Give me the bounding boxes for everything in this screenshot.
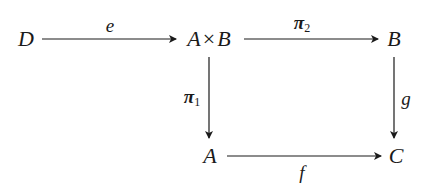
node-product-left: A (187, 26, 200, 51)
edge-label-f-text: f (299, 162, 304, 183)
edge-label-g: g (401, 89, 411, 108)
node-d: D (18, 28, 34, 50)
node-product-right: B (217, 26, 230, 51)
node-c: C (389, 145, 404, 167)
node-b: B (387, 28, 400, 50)
node-b-label: B (387, 26, 400, 51)
edge-label-pi2-sub: 2 (304, 21, 310, 35)
edge-label-e: e (106, 16, 114, 35)
edge-label-pi2-base: π (294, 12, 304, 33)
edge-label-pi1-base: π (184, 86, 194, 107)
edge-label-g-text: g (401, 88, 411, 109)
edge-label-e-text: e (106, 15, 114, 36)
node-a-label: A (203, 143, 216, 168)
edge-label-pi1-sub: 1 (194, 95, 200, 109)
node-product-a-b: A×B (187, 28, 230, 50)
edge-label-f: f (299, 163, 304, 182)
node-c-label: C (389, 143, 404, 168)
edge-label-pi1: π1 (184, 87, 200, 112)
edge-label-pi2: π2 (294, 13, 310, 38)
product-operator: × (203, 26, 215, 51)
node-a: A (203, 145, 216, 167)
node-d-label: D (18, 26, 34, 51)
